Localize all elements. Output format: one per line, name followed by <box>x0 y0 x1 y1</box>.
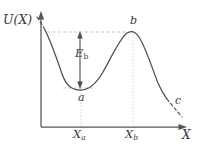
x-tick-xa-symbol: X <box>73 127 81 141</box>
x-axis-label: X <box>182 129 191 141</box>
potential-curve-solid <box>45 30 167 99</box>
potential-energy-diagram: U(X) Eb a b c Xa Xb X <box>0 0 199 148</box>
y-axis-label-arg: (X) <box>14 12 33 27</box>
x-tick-xb-subscript: b <box>133 133 138 142</box>
barrier-energy-label: Eb <box>75 48 88 60</box>
x-tick-xa-subscript: a <box>81 133 86 142</box>
point-b-label: b <box>130 15 137 26</box>
point-c-label: c <box>175 95 181 106</box>
y-axis-label: U(X) <box>3 14 32 27</box>
x-tick-xb-symbol: X <box>125 127 133 141</box>
x-tick-label-xa: Xa <box>73 129 86 141</box>
y-axis-label-var: U <box>3 12 14 27</box>
barrier-energy-subscript: b <box>83 52 88 61</box>
y-axis-arrowhead <box>38 11 44 20</box>
point-a-label: a <box>78 92 85 103</box>
x-tick-label-xb: Xb <box>125 129 138 141</box>
